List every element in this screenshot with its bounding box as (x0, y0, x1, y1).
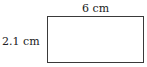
height-label: 2.1 cm (2, 36, 40, 47)
rectangle-shape (47, 16, 144, 63)
width-label: 6 cm (82, 3, 109, 14)
